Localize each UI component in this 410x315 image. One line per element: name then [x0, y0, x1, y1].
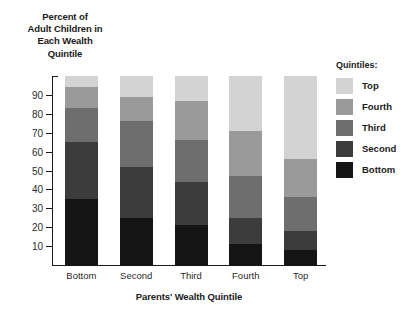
- legend-item-third: Third: [336, 118, 410, 137]
- chart-figure: Percent of Adult Children in Each Wealth…: [0, 0, 410, 315]
- bar-segment-top: [65, 76, 98, 87]
- legend-item-top: Top: [336, 76, 410, 95]
- bar-segment-bottom: [229, 244, 262, 265]
- x-axis-tick-label: Third: [180, 270, 202, 281]
- legend-swatch: [336, 120, 353, 136]
- bar-segment-top: [175, 76, 208, 101]
- y-axis-tick-label: 10: [32, 241, 43, 252]
- x-axis-tick-label: Second: [120, 270, 152, 281]
- stacked-bar: [229, 76, 262, 265]
- y-axis-tick-mark: [46, 95, 52, 96]
- y-axis-tick-mark: [46, 246, 52, 247]
- bar-segment-second: [175, 182, 208, 225]
- legend-item-bottom: Bottom: [336, 160, 410, 179]
- legend-label: Second: [362, 143, 396, 154]
- stacked-bar: [175, 76, 208, 265]
- y-axis-line: [52, 76, 53, 266]
- x-axis-tick-label: Fourth: [232, 270, 259, 281]
- legend-entries: TopFourthThirdSecondBottom: [336, 76, 410, 179]
- legend-swatch: [336, 99, 353, 115]
- y-axis-top-cap: [52, 76, 58, 77]
- stacked-bar: [120, 76, 153, 265]
- legend-label: Third: [362, 122, 386, 133]
- bar-segment-second: [284, 231, 317, 250]
- plot-area: 102030405060708090 BottomSecondThirdFour…: [52, 76, 326, 266]
- bar-segment-fourth: [120, 97, 153, 122]
- bar-segment-third: [229, 176, 262, 218]
- y-axis-title-line-1: Percent of: [0, 11, 130, 23]
- bar-segment-bottom: [284, 250, 317, 265]
- bar-segment-top: [120, 76, 153, 97]
- bar-segment-bottom: [120, 218, 153, 265]
- bar-segment-top: [229, 76, 262, 131]
- y-axis-title-line-2: Adult Children in: [0, 23, 130, 35]
- bar-segment-bottom: [65, 199, 98, 265]
- bar-segment-third: [120, 121, 153, 166]
- stacked-bar: [65, 76, 98, 265]
- y-axis-tick-label: 60: [32, 146, 43, 157]
- y-axis-tick-label: 90: [32, 89, 43, 100]
- legend-item-second: Second: [336, 139, 410, 158]
- x-axis-tick-label: Bottom: [66, 270, 96, 281]
- y-axis-tick-mark: [46, 114, 52, 115]
- x-axis-line: [52, 265, 326, 266]
- legend: Quintiles: TopFourthThirdSecondBottom: [336, 60, 410, 181]
- bar-segment-fourth: [175, 101, 208, 141]
- legend-item-fourth: Fourth: [336, 97, 410, 116]
- y-axis-tick-mark: [46, 208, 52, 209]
- bar-segment-second: [229, 218, 262, 244]
- x-axis-tick-label: Top: [293, 270, 308, 281]
- y-axis-tick-label: 80: [32, 108, 43, 119]
- y-axis-tick-mark: [46, 189, 52, 190]
- y-axis-tick-label: 50: [32, 165, 43, 176]
- y-axis-tick-mark: [46, 227, 52, 228]
- y-axis-tick-label: 20: [32, 222, 43, 233]
- y-axis-tick-mark: [46, 133, 52, 134]
- y-axis-tick-mark: [46, 152, 52, 153]
- y-axis-title-line-4: Quintile: [0, 48, 130, 60]
- legend-label: Bottom: [362, 164, 395, 175]
- bar-segment-top: [284, 76, 317, 159]
- bar-segment-second: [120, 167, 153, 218]
- legend-swatch: [336, 141, 353, 157]
- y-axis-tick-mark: [46, 171, 52, 172]
- bar-segment-second: [65, 142, 98, 199]
- y-axis-title-line-3: Each Wealth: [0, 35, 130, 47]
- bar-segment-third: [65, 108, 98, 142]
- bar-segment-third: [175, 140, 208, 182]
- bar-segment-fourth: [229, 131, 262, 176]
- y-axis-tick-label: 40: [32, 184, 43, 195]
- stacked-bar: [284, 76, 317, 265]
- y-axis-tick-label: 70: [32, 127, 43, 138]
- y-axis-tick-label: 30: [32, 203, 43, 214]
- y-axis-title: Percent of Adult Children in Each Wealth…: [0, 11, 130, 60]
- bar-segment-bottom: [175, 225, 208, 265]
- legend-label: Top: [362, 80, 379, 91]
- legend-swatch: [336, 78, 353, 94]
- bar-segment-fourth: [65, 87, 98, 108]
- legend-swatch: [336, 162, 353, 178]
- legend-label: Fourth: [362, 101, 392, 112]
- x-axis-title: Parents' Wealth Quintile: [52, 291, 326, 302]
- bar-segment-third: [284, 197, 317, 231]
- bar-segment-fourth: [284, 159, 317, 197]
- legend-title: Quintiles:: [336, 60, 410, 70]
